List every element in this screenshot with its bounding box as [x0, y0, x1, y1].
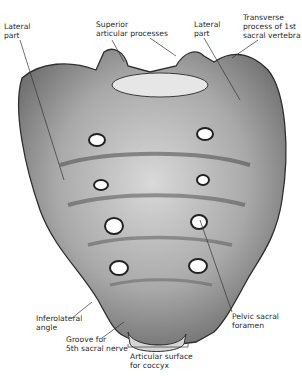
foramen-2-right [197, 175, 209, 185]
label-superior-articular-processes: Superior articular processes [96, 20, 168, 38]
label-lateral-part-right: Lateral part [194, 20, 220, 38]
foramen-4-left [110, 261, 128, 275]
label-lateral-part-left: Lateral part [4, 22, 30, 40]
foramen-1-right [197, 128, 213, 140]
label-transverse-process: Transverse process of 1st sacral vertebr… [243, 13, 301, 40]
foramen-2-left [94, 180, 108, 190]
label-pelvic-sacral-foramen: Pelvic sacral foramen [232, 312, 279, 330]
label-inferolateral-angle: Inferolateral angle [36, 314, 82, 332]
label-articular-surface-coccyx: Articular surface for coccyx [130, 352, 193, 370]
foramen-1-left [89, 134, 105, 146]
foramen-3-left [105, 218, 123, 234]
foramen-3-right [191, 215, 207, 229]
foramen-4-right [189, 259, 207, 273]
label-groove-5th-sacral-nerve: Groove for 5th sacral nerve [66, 335, 128, 353]
base-of-sacrum [112, 73, 208, 97]
